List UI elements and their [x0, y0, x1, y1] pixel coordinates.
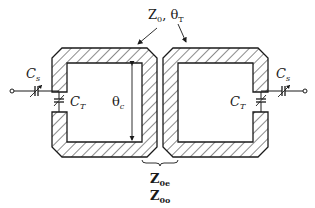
label-left-cs: Cs: [26, 67, 40, 83]
cs-subscript: s: [36, 74, 40, 83]
right-resonator: [163, 48, 268, 157]
cs-symbol: C: [26, 66, 36, 81]
diagram-canvas: Z0, θT Cs CT Cs CT θc Z0e Z0o: [0, 0, 315, 208]
cs-subscript: s: [286, 74, 290, 83]
cs-symbol: C: [276, 66, 286, 81]
label-z0o: Z0o: [150, 189, 170, 204]
label-right-ct: CT: [230, 95, 245, 111]
ct-symbol: C: [70, 94, 80, 109]
left-input-terminal[interactable]: [10, 89, 14, 93]
label-left-ct: CT: [70, 95, 85, 111]
z0e-symbol: Z: [150, 171, 160, 186]
ct-subscript: T: [80, 102, 85, 111]
z0e-subscript: 0e: [160, 178, 171, 188]
impedance-pointer-arrows: [138, 24, 186, 44]
ct-symbol: C: [230, 94, 240, 109]
z0o-symbol: Z: [150, 188, 160, 203]
z0-symbol: Z: [148, 7, 157, 22]
theta-t-subscript: T: [178, 15, 183, 24]
label-theta-c: θc: [112, 95, 124, 111]
ct-subscript: T: [240, 102, 245, 111]
right-output-terminal[interactable]: [303, 89, 307, 93]
z0o-subscript: 0o: [160, 195, 171, 205]
left-resonator: [52, 48, 157, 157]
label-z0e: Z0e: [150, 172, 170, 187]
coupled-section-brace: [142, 160, 178, 166]
label-right-cs: Cs: [276, 67, 290, 83]
theta-c-subscript: c: [120, 102, 124, 111]
theta-symbol: θ: [112, 94, 120, 109]
label-z0-theta-t: Z0, θT: [148, 8, 184, 24]
